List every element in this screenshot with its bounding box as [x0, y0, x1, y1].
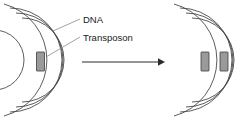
transposon-rect-copy-1: [201, 52, 209, 71]
arrow-head-icon: [158, 58, 165, 66]
transposon-block-original: [37, 52, 45, 71]
transposon-rect-original: [37, 52, 45, 71]
transposon-rect-copy-2: [220, 52, 228, 71]
dna-label: DNA: [83, 14, 104, 25]
left-chromosome-arc-inner-1: [10, 8, 62, 112]
dna-leader-line: [53, 19, 80, 31]
transition-arrow-group: [82, 58, 165, 66]
transposon-blocks-after: [201, 52, 228, 71]
figure-canvas: DNA Transposon: [0, 0, 237, 120]
transposon-diagram: DNA Transposon: [0, 0, 237, 120]
left-chromosome-arc-1: [0, 30, 24, 90]
transposon-label: Transposon: [83, 32, 133, 43]
right-chromosome-arc-inner-2: [174, 4, 217, 116]
left-chromosome-group: [0, 4, 64, 116]
